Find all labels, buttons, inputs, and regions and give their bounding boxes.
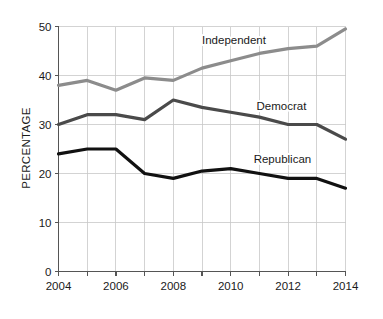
x-tick-label: 2012	[275, 280, 301, 292]
chart-container: 01020304050 200420062008201020122014 Ind…	[0, 0, 383, 319]
y-tick-label: 40	[39, 70, 52, 82]
x-tick-label: 2014	[333, 280, 359, 292]
y-axis-title: PERCENTAGE	[20, 107, 32, 188]
x-tick-label: 2008	[161, 280, 187, 292]
y-tick-label: 50	[39, 21, 52, 33]
series-label-democrat: Democrat	[257, 100, 308, 112]
line-chart: 01020304050 200420062008201020122014 Ind…	[0, 0, 383, 319]
y-tick-label: 10	[39, 217, 52, 229]
y-tick-label: 20	[39, 168, 52, 180]
x-tick-label: 2004	[46, 280, 72, 292]
y-tick-label: 30	[39, 119, 52, 131]
series-label-republican: Republican	[254, 153, 312, 165]
y-tick-label: 0	[45, 266, 51, 278]
x-tick-label: 2006	[103, 280, 129, 292]
x-tick-label: 2010	[218, 280, 244, 292]
series-label-independent: Independent	[202, 34, 267, 46]
